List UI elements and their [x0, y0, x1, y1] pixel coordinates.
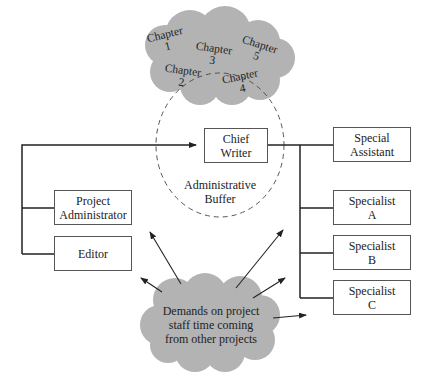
right-connector	[246, 145, 340, 298]
special-assistant-box[interactable]: Special Assistant	[333, 127, 411, 162]
arrow-to-editor	[141, 278, 162, 292]
specialist-a-box[interactable]: Specialist A	[333, 190, 411, 225]
demands-cloud-label: Demands on project staff time coming fro…	[150, 304, 272, 346]
specialist-c-box[interactable]: Specialist C	[333, 280, 411, 315]
arrow-to-specialist-a	[236, 230, 283, 288]
chapter-3-label: Chapter3	[194, 40, 233, 69]
administrative-buffer-label: Administrative Buffer	[180, 178, 260, 206]
chief-writer-box[interactable]: Chief Writer	[204, 128, 268, 163]
arrow-to-project-admin	[150, 232, 181, 284]
project-administrator-box[interactable]: Project Administrator	[54, 190, 132, 225]
specialist-b-box[interactable]: Specialist B	[333, 235, 411, 270]
editor-box[interactable]: Editor	[54, 236, 132, 271]
chapter-2-label: Chapter2	[163, 62, 202, 91]
